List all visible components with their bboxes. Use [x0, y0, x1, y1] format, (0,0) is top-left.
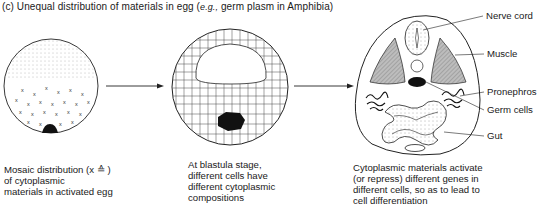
activated-egg: xxxxxx xxxxxxx xxxxxx xxxx [4, 39, 98, 133]
germ-cells [408, 77, 426, 87]
svg-text:x: x [31, 111, 34, 117]
caption-egg: Mosaic distribution (x ≙ ) of cytoplasmi… [4, 164, 113, 197]
svg-text:x: x [57, 89, 60, 95]
caption-blastula: At blastula stage, different cells have … [188, 159, 275, 203]
label-gut: Gut [487, 130, 502, 141]
svg-text:x: x [69, 87, 72, 93]
label-pronephros: Pronephros [487, 86, 537, 97]
svg-text:x: x [59, 121, 62, 127]
ventral-vessel [405, 145, 425, 152]
svg-text:x: x [15, 97, 18, 103]
svg-text:x: x [27, 101, 30, 107]
arrow-egg-to-blastula [106, 84, 164, 89]
embryo-cross-section [355, 16, 484, 155]
svg-text:x: x [75, 101, 78, 107]
svg-text:x: x [63, 99, 66, 105]
svg-text:x: x [81, 91, 84, 97]
blastula [170, 29, 290, 150]
notochord [411, 60, 423, 72]
label-germ-cells: Germ cells [487, 104, 533, 115]
svg-text:x: x [33, 91, 36, 97]
svg-text:x: x [67, 109, 70, 115]
caption-differentiation: Cytoplasmic materials activate (or repre… [353, 162, 483, 206]
svg-text:x: x [21, 87, 24, 93]
label-muscle: Muscle [487, 48, 517, 59]
svg-text:x: x [55, 111, 58, 117]
svg-text:x: x [87, 99, 90, 105]
svg-text:x: x [19, 109, 22, 115]
svg-text:x: x [27, 119, 30, 125]
arrow-blastula-to-embryo [294, 84, 354, 89]
svg-text:x: x [51, 101, 54, 107]
svg-text:x: x [45, 85, 48, 91]
svg-text:x: x [43, 109, 46, 115]
label-nerve-cord: Nerve cord [486, 10, 533, 21]
svg-text:x: x [79, 111, 82, 117]
svg-text:x: x [39, 99, 42, 105]
svg-text:x: x [39, 121, 42, 127]
svg-text:x: x [71, 119, 74, 125]
